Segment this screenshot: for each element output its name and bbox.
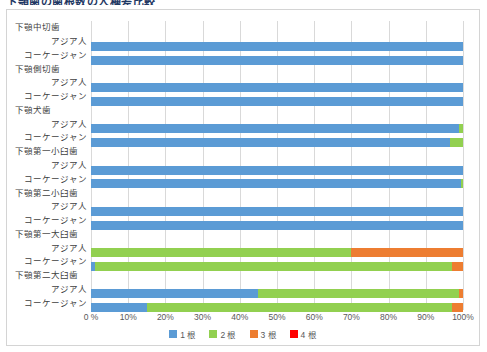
category-group-label: 下顎第一小臼歯 bbox=[15, 146, 78, 157]
bar-segment[interactable] bbox=[147, 303, 452, 312]
category-group-label: 下顎第一大臼歯 bbox=[15, 229, 78, 240]
x-tick-label: 20% bbox=[157, 312, 174, 322]
stacked-bar[interactable] bbox=[91, 97, 463, 106]
category-row-label: コーケージャン bbox=[24, 215, 87, 226]
category-row-label: アジア人 bbox=[51, 284, 87, 295]
legend-item[interactable]: 2 根 bbox=[209, 328, 236, 340]
x-tick-label: 60% bbox=[306, 312, 323, 322]
legend-item[interactable]: 1 根 bbox=[169, 328, 196, 340]
bar-row bbox=[91, 255, 463, 279]
category-group-label: 下顎犬歯 bbox=[15, 105, 51, 116]
category-group-label: 下顎側切歯 bbox=[15, 64, 60, 75]
stacked-bar[interactable] bbox=[91, 221, 463, 230]
stacked-bar[interactable] bbox=[91, 179, 463, 188]
x-tick-label: 100% bbox=[452, 312, 474, 322]
category-group-label: 下顎中切歯 bbox=[15, 22, 60, 33]
bar-row bbox=[91, 214, 463, 238]
stacked-bar[interactable] bbox=[91, 262, 463, 271]
legend-label: 3 根 bbox=[261, 328, 277, 340]
gridline bbox=[463, 21, 464, 310]
legend-label: 1 根 bbox=[180, 328, 196, 340]
bar-segment[interactable] bbox=[91, 56, 463, 65]
category-row-label: アジア人 bbox=[51, 77, 87, 88]
category-group-label: 下顎第二小臼歯 bbox=[15, 188, 78, 199]
bar-row bbox=[91, 172, 463, 196]
category-row-label: コーケージャン bbox=[24, 174, 87, 185]
legend-swatch-icon bbox=[250, 330, 258, 338]
legend-item[interactable]: 3 根 bbox=[250, 328, 277, 340]
legend-swatch-icon bbox=[209, 330, 217, 338]
stacked-bar[interactable] bbox=[91, 303, 463, 312]
x-tick-label: 10% bbox=[120, 312, 137, 322]
legend-swatch-icon bbox=[290, 330, 298, 338]
bar-segment[interactable] bbox=[452, 262, 463, 271]
category-row-label: コーケージャン bbox=[24, 132, 87, 143]
category-axis: 下顎中切歯アジア人コーケージャン下顎側切歯アジア人コーケージャン下顎犬歯アジア人… bbox=[7, 21, 91, 310]
bar-row bbox=[91, 49, 463, 73]
plot-area bbox=[91, 21, 463, 310]
category-row-label: コーケージャン bbox=[24, 298, 87, 309]
page-title: 下顎歯の歯根数の人種差比較 bbox=[6, 0, 156, 5]
legend-swatch-icon bbox=[169, 330, 177, 338]
x-tick-label: 70% bbox=[343, 312, 360, 322]
bar-segment[interactable] bbox=[450, 138, 463, 147]
x-tick-label: 30% bbox=[194, 312, 211, 322]
chart-frame: 下顎中切歯アジア人コーケージャン下顎側切歯アジア人コーケージャン下顎犬歯アジア人… bbox=[6, 9, 480, 346]
bar-row bbox=[91, 131, 463, 155]
bar-segment[interactable] bbox=[91, 97, 463, 106]
bar-row bbox=[91, 90, 463, 114]
category-row-label: アジア人 bbox=[51, 119, 87, 130]
category-row-label: アジア人 bbox=[51, 243, 87, 254]
category-row-label: コーケージャン bbox=[24, 91, 87, 102]
stacked-bar[interactable] bbox=[91, 56, 463, 65]
chart-legend: 1 根2 根3 根4 根 bbox=[7, 328, 479, 340]
bar-segment[interactable] bbox=[95, 262, 452, 271]
legend-item[interactable]: 4 根 bbox=[290, 328, 317, 340]
x-tick-label: 80% bbox=[380, 312, 397, 322]
x-tick-label: 90% bbox=[417, 312, 434, 322]
legend-label: 2 根 bbox=[220, 328, 236, 340]
bar-segment[interactable] bbox=[461, 179, 463, 188]
bar-segment[interactable] bbox=[91, 138, 450, 147]
category-row-label: アジア人 bbox=[51, 201, 87, 212]
category-row-label: アジア人 bbox=[51, 160, 87, 171]
x-tick-label: 0 % bbox=[84, 312, 99, 322]
bar-segment[interactable] bbox=[91, 179, 461, 188]
bar-segment[interactable] bbox=[91, 221, 463, 230]
x-axis-ticks: 0 %10%20%30%40%50%60%70%80%90%100% bbox=[91, 312, 463, 326]
x-tick-label: 50% bbox=[268, 312, 285, 322]
legend-label: 4 根 bbox=[301, 328, 317, 340]
x-tick-label: 40% bbox=[231, 312, 248, 322]
category-row-label: コーケージャン bbox=[24, 50, 87, 61]
bar-segment[interactable] bbox=[91, 303, 147, 312]
stacked-bar[interactable] bbox=[91, 138, 463, 147]
category-group-label: 下顎第二大臼歯 bbox=[15, 270, 78, 281]
bar-segment[interactable] bbox=[452, 303, 463, 312]
category-row-label: コーケージャン bbox=[24, 256, 87, 267]
category-row-label: アジア人 bbox=[51, 36, 87, 47]
